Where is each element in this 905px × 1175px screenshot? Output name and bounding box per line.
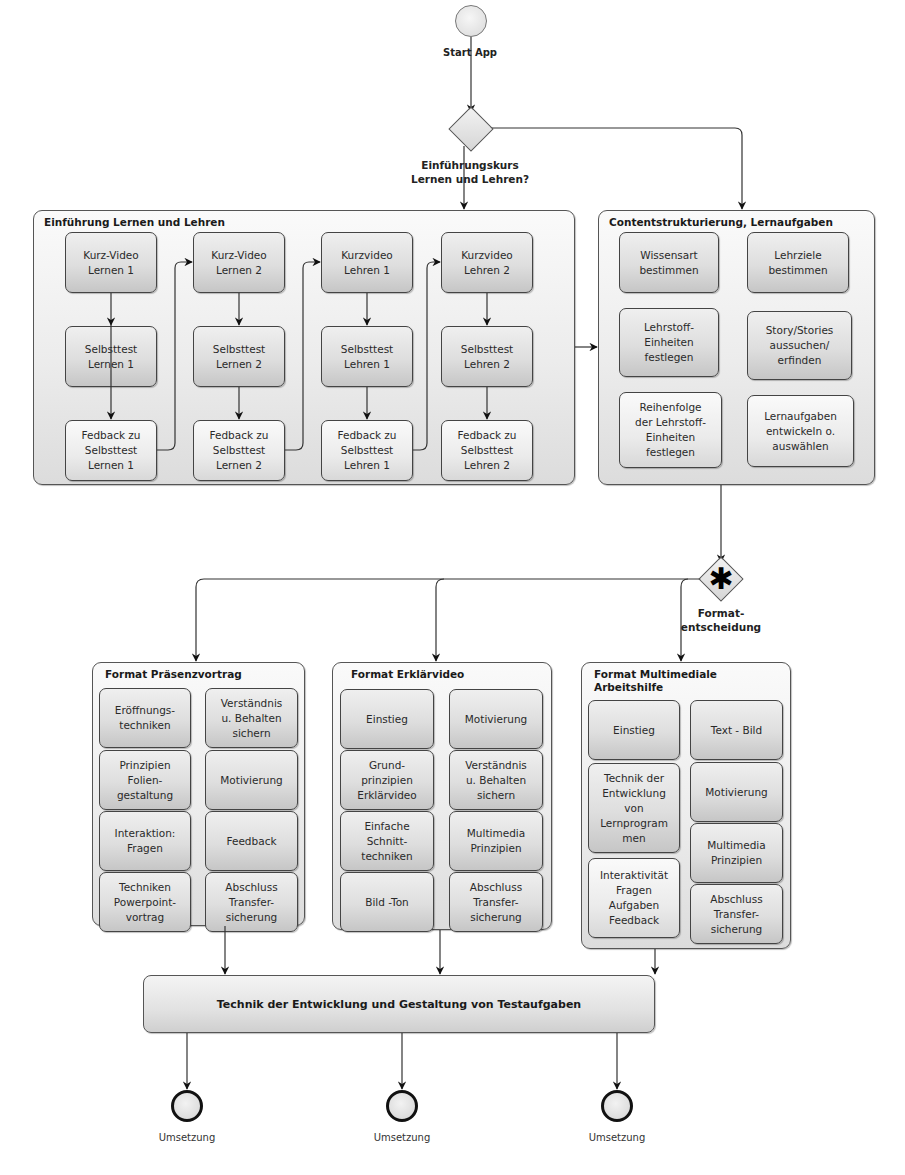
task-erklaer-left-2[interactable]: Grund- prinzipien Erklärvideo xyxy=(340,750,434,810)
task-multimedia-right-1[interactable]: Text - Bild xyxy=(690,700,783,760)
task-praesenz-right-4[interactable]: Abschluss Transfer- sicherung xyxy=(205,872,298,932)
asterisk-icon: ✱ xyxy=(706,564,736,594)
activity-diagram: Start App Einführungskurs Lernen und Leh… xyxy=(0,0,905,1175)
task-praesenz-left-4[interactable]: Techniken Powerpoint- vortrag xyxy=(99,872,191,932)
end-label-3: Umsetzung xyxy=(577,1132,657,1143)
start-label: Start App xyxy=(400,46,540,60)
task-feedback-lernen-2[interactable]: Fedback zu Selbsttest Lernen 2 xyxy=(193,420,285,481)
format-erklaervideo-title: Format Erklärvideo xyxy=(351,668,464,681)
task-kurzvideo-lernen-2[interactable]: Kurz-Video Lernen 2 xyxy=(193,232,285,293)
task-multimedia-left-2[interactable]: Technik der Entwicklung von Lernprogram … xyxy=(588,763,680,853)
task-testaufgaben[interactable]: Technik der Entwicklung und Gestaltung v… xyxy=(143,975,655,1033)
task-praesenz-left-3[interactable]: Interaktion: Fragen xyxy=(99,811,191,871)
task-praesenz-right-1[interactable]: Verständnis u. Behalten sichern xyxy=(205,688,298,748)
task-lehrziele[interactable]: Lehrziele bestimmen xyxy=(747,232,849,293)
task-erklaer-right-2[interactable]: Verständnis u. Behalten sichern xyxy=(449,750,543,810)
task-praesenz-left-2[interactable]: Prinzipien Folien- gestaltung xyxy=(99,750,191,810)
end-event-1[interactable] xyxy=(171,1090,203,1122)
decision-gateway[interactable] xyxy=(448,106,493,151)
task-feedback-lernen-1[interactable]: Fedback zu Selbsttest Lernen 1 xyxy=(65,420,157,481)
task-praesenz-right-2[interactable]: Motivierung xyxy=(205,750,298,810)
task-multimedia-right-2[interactable]: Motivierung xyxy=(690,762,783,822)
task-selbsttest-lehren-2[interactable]: Selbsttest Lehren 2 xyxy=(441,326,533,387)
einfuehrung-title: Einführung Lernen und Lehren xyxy=(44,216,225,229)
task-selbsttest-lehren-1[interactable]: Selbsttest Lehren 1 xyxy=(321,326,413,387)
end-event-3[interactable] xyxy=(601,1090,633,1122)
task-multimedia-left-3[interactable]: Interaktivität Fragen Aufgaben Feedback xyxy=(588,858,680,938)
task-lehrstoff-einheiten[interactable]: Lehrstoff- Einheiten festlegen xyxy=(619,308,719,377)
format-praesenz-title: Format Präsenzvortrag xyxy=(105,668,242,681)
task-feedback-lehren-2[interactable]: Fedback zu Selbsttest Lehren 2 xyxy=(441,420,533,481)
task-kurzvideo-lehren-2[interactable]: Kurzvideo Lehren 2 xyxy=(441,232,533,293)
task-multimedia-right-4[interactable]: Abschluss Transfer- sicherung xyxy=(690,884,783,944)
task-erklaer-left-4[interactable]: Bild -Ton xyxy=(340,872,434,932)
format-gateway-label: Format- entscheidung xyxy=(676,606,766,634)
gateway-label: Einführungskurs Lernen und Lehren? xyxy=(380,158,560,186)
task-praesenz-right-3[interactable]: Feedback xyxy=(205,811,298,871)
end-label-1: Umsetzung xyxy=(147,1132,227,1143)
task-erklaer-left-1[interactable]: Einstieg xyxy=(340,689,434,749)
task-selbsttest-lernen-2[interactable]: Selbsttest Lernen 2 xyxy=(193,326,285,387)
task-erklaer-right-1[interactable]: Motivierung xyxy=(449,689,543,749)
task-multimedia-right-3[interactable]: Multimedia Prinzipien xyxy=(690,823,783,883)
task-kurzvideo-lernen-1[interactable]: Kurz-Video Lernen 1 xyxy=(65,232,157,293)
end-event-2[interactable] xyxy=(386,1090,418,1122)
start-event[interactable] xyxy=(455,5,487,37)
task-reihenfolge[interactable]: Reihenfolge der Lehrstoff- Einheiten fes… xyxy=(619,392,722,468)
task-erklaer-right-3[interactable]: Multimedia Prinzipien xyxy=(449,811,543,871)
task-kurzvideo-lehren-1[interactable]: Kurzvideo Lehren 1 xyxy=(321,232,413,293)
task-praesenz-left-1[interactable]: Eröffnungs- techniken xyxy=(99,688,191,748)
task-erklaer-left-3[interactable]: Einfache Schnitt- techniken xyxy=(340,811,434,871)
task-erklaer-right-4[interactable]: Abschluss Transfer- sicherung xyxy=(449,872,543,932)
task-feedback-lehren-1[interactable]: Fedback zu Selbsttest Lehren 1 xyxy=(321,420,413,481)
end-label-2: Umsetzung xyxy=(362,1132,442,1143)
task-lernaufgaben[interactable]: Lernaufgaben entwickeln o. auswählen xyxy=(747,395,854,467)
task-wissensart[interactable]: Wissensart bestimmen xyxy=(619,232,719,293)
content-title: Contentstrukturierung, Lernaufgaben xyxy=(609,216,833,229)
format-multimedia-title: Format Multimediale Arbeitshilfe xyxy=(594,668,717,694)
task-multimedia-left-1[interactable]: Einstieg xyxy=(588,700,680,760)
task-selbsttest-lernen-1[interactable]: Selbsttest Lernen 1 xyxy=(65,326,157,387)
task-story[interactable]: Story/Stories aussuchen/ erfinden xyxy=(747,311,852,380)
